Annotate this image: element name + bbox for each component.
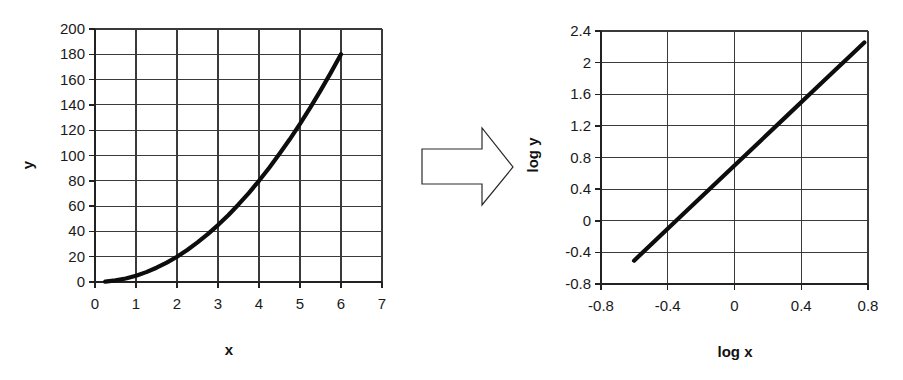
log-log-plot-panel: -0.8 -0.4 0 0.4 0.8 1.2 1.6 2 2.4 -0.8 -…	[520, 0, 903, 380]
y-tick-label: -0.4	[565, 243, 591, 260]
y-tick-labels: 0 20 40 60 80 100 120 140 160 180 200	[60, 20, 85, 290]
data-line	[634, 42, 864, 260]
y-tick-label: 60	[68, 197, 85, 214]
right-arrow-icon	[422, 128, 513, 205]
y-tick-label: 2	[583, 54, 591, 71]
y-axis-title: log y	[524, 137, 541, 173]
y-tick-label: 140	[60, 96, 85, 113]
y-tick-labels: -0.8 -0.4 0 0.4 0.8 1.2 1.6 2 2.4	[565, 22, 591, 292]
x-axis-title: x	[225, 341, 234, 358]
x-tick-label: 0	[730, 297, 738, 314]
y-tick-label: 0	[583, 212, 591, 229]
x-tick-labels: 0 1 2 3 4 5 6 7	[91, 295, 386, 312]
x-tick-marks	[601, 284, 868, 290]
y-tick-label: 160	[60, 71, 85, 88]
x-tick-label: 6	[337, 295, 345, 312]
y-tick-label: 100	[60, 147, 85, 164]
y-tick-label: 0	[77, 273, 85, 290]
y-tick-label: 0.4	[570, 180, 591, 197]
y-axis-title: y	[19, 160, 36, 169]
log-log-plot-svg: -0.8 -0.4 0 0.4 0.8 1.2 1.6 2 2.4 -0.8 -…	[520, 0, 903, 380]
y-tick-label: 40	[68, 222, 85, 239]
x-tick-label: 1	[132, 295, 140, 312]
y-tick-label: 2.4	[570, 22, 591, 39]
y-tick-label: 0.8	[570, 149, 591, 166]
x-tick-label: 7	[378, 295, 386, 312]
x-tick-label: 3	[214, 295, 222, 312]
y-tick-label: 200	[60, 20, 85, 37]
y-tick-label: 1.6	[570, 85, 591, 102]
x-tick-label: -0.8	[588, 297, 614, 314]
data-curve	[105, 54, 341, 281]
x-tick-label: 0	[91, 295, 99, 312]
linear-plot-svg: 0 20 40 60 80 100 120 140 160 180 200 0 …	[0, 0, 420, 380]
y-tick-marks	[89, 29, 95, 282]
y-tick-label: 120	[60, 121, 85, 138]
x-tick-label: 0.4	[791, 297, 812, 314]
arrow-panel	[410, 0, 530, 380]
y-tick-label: 20	[68, 248, 85, 265]
x-tick-marks	[95, 282, 382, 288]
linear-plot-panel: 0 20 40 60 80 100 120 140 160 180 200 0 …	[0, 0, 420, 380]
x-tick-label: 0.8	[858, 297, 879, 314]
x-tick-label: 4	[255, 295, 263, 312]
x-axis-title: log x	[717, 343, 753, 360]
y-tick-label: 80	[68, 172, 85, 189]
y-tick-label: 180	[60, 45, 85, 62]
y-tick-label: -0.8	[565, 275, 591, 292]
x-tick-label: -0.4	[655, 297, 681, 314]
two-panel-figure: 0 20 40 60 80 100 120 140 160 180 200 0 …	[0, 0, 903, 380]
arrow-svg	[410, 0, 530, 380]
horizontal-gridlines	[95, 29, 382, 282]
x-tick-label: 5	[296, 295, 304, 312]
x-tick-label: 2	[173, 295, 181, 312]
y-tick-label: 1.2	[570, 117, 591, 134]
x-tick-labels: -0.8 -0.4 0 0.4 0.8	[588, 297, 878, 314]
y-tick-marks	[595, 31, 601, 284]
